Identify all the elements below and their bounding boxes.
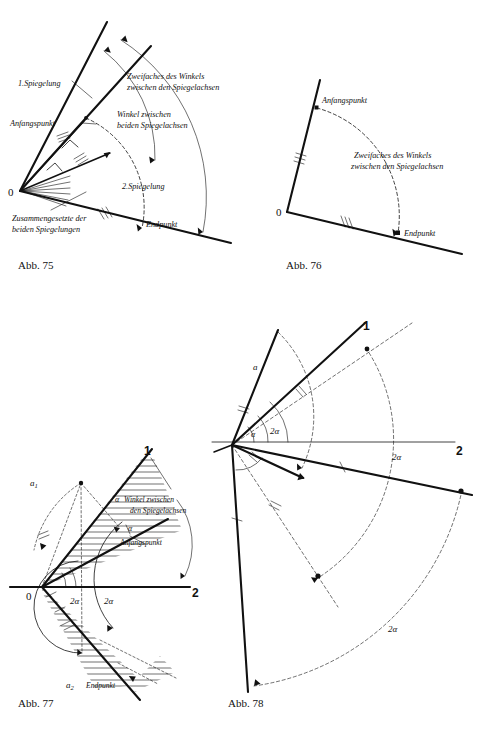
abb77-axis-2-label: 2 xyxy=(192,586,199,600)
abb77-label-end-point: Endpunkt xyxy=(85,681,116,690)
abb78-dashed-ray-upper xyxy=(232,323,412,445)
abb77-label-a2: a2 xyxy=(66,680,75,691)
abb77-label-2alpha-outer: 2α xyxy=(104,596,114,606)
figure-page: 1.Spiegelung Anfangspunkt Zweifaches des… xyxy=(0,0,489,734)
abb77-label-start-point: Anfangspunkt xyxy=(119,538,163,547)
abb77-tick-marks xyxy=(38,525,130,630)
abb76-end-point-dot xyxy=(396,231,401,236)
abb78-axis-1-line xyxy=(232,323,365,445)
abb77-hatching-upper xyxy=(30,460,200,580)
intermediate-ray-line xyxy=(20,153,110,191)
abb78-label-2alpha-far: 2α xyxy=(388,624,398,634)
abb77-arc-2alpha-outer-arrow xyxy=(107,625,113,632)
abb76-label-double-angle-line1: Zweifaches des Winkels xyxy=(354,151,431,160)
label-end-point: Endpunkt xyxy=(145,220,178,229)
abb78-alpha-arc-lower xyxy=(236,458,262,470)
abb78-arc-small-arrow xyxy=(297,464,302,471)
abb78-point-lower-dot xyxy=(315,573,320,578)
abb77-hatching-lower-b xyxy=(20,596,200,692)
caption-abb78: Abb. 78 xyxy=(228,697,264,709)
abb77-label-origin: 0 xyxy=(26,590,32,602)
abb77-dashed-lower-1 xyxy=(100,640,176,678)
abb77-label-2alpha-inner: 2α xyxy=(70,596,80,606)
abb77-leader-arrow-axis2 xyxy=(180,572,185,579)
label-composition-line1: Zusammengesetzte der xyxy=(12,214,87,223)
abb77-start-arrowhead xyxy=(114,527,120,533)
abb77-axis-1-label: 1 xyxy=(144,444,151,458)
label-double-angle-line2: zwischen den Spiegelachsen xyxy=(126,83,219,92)
angle-measure-arc-outer-arrow-bottom xyxy=(198,228,203,235)
label-origin-abb75: 0 xyxy=(8,186,14,198)
abb78-lower-right-ray xyxy=(232,445,472,495)
abb77-start-ray-line xyxy=(42,519,168,587)
angle-measure-arc-inner xyxy=(104,51,155,160)
figure-abb77: a1 a2 α α Winkel zwischen den Spiegelach… xyxy=(10,444,200,709)
abb76-start-point-dot xyxy=(315,106,319,110)
abb76-label-origin: 0 xyxy=(276,206,282,218)
abb78-point-right-dot xyxy=(458,488,463,493)
label-angle-between-axes-line1: Winkel zwischen xyxy=(117,110,171,119)
start-point-dot xyxy=(84,116,88,120)
abb78-stub-ray xyxy=(214,445,232,452)
label-composition-line2: beiden Spiegelungen xyxy=(12,225,80,234)
abb77-label-a1: a1 xyxy=(30,478,38,489)
abb77-end-arrowhead xyxy=(129,676,136,682)
abb78-arc-far xyxy=(254,490,462,686)
abb76-label-double-angle-line2: zwischen den Spiegelachsen xyxy=(350,162,443,171)
abb78-point-upper-dot xyxy=(365,347,370,352)
label-double-angle-line1: Zweifaches des Winkels xyxy=(127,72,204,81)
leader-start-point xyxy=(82,123,96,124)
right-angle-mark-lower xyxy=(47,163,62,171)
abb76-axis-2-line xyxy=(287,212,462,254)
figure-abb78: a α 2α 2α 2α 1 2 Abb. 78 xyxy=(212,319,472,709)
label-first-reflection: 1.Spiegelung xyxy=(18,79,61,88)
rotation-arc-arrowhead xyxy=(137,224,143,232)
abb78-label-a: a xyxy=(253,362,258,372)
leader-first-reflection xyxy=(72,81,92,98)
angle-measure-arc-inner-arrow-bottom xyxy=(149,156,155,163)
abb78-axis-1-label: 1 xyxy=(363,319,370,333)
geometry-plate: 1.Spiegelung Anfangspunkt Zweifaches des… xyxy=(0,0,489,734)
abb78-label-2alpha-mid: 2α xyxy=(392,452,402,462)
rotation-arc-dashed xyxy=(86,118,144,228)
angle-measure-arc-outer xyxy=(121,40,206,232)
start-ray-line xyxy=(20,120,85,191)
abb76-label-end-point: Endpunkt xyxy=(403,229,436,238)
mirror-axis-1-line xyxy=(20,22,107,191)
abb78-label-alpha: α xyxy=(251,430,256,439)
abb77-dashed-a1-to-axis xyxy=(81,483,120,528)
abb78-descending-line xyxy=(232,445,248,692)
figure-abb75: 1.Spiegelung Anfangspunkt Zweifaches des… xyxy=(8,22,231,271)
caption-abb75: Abb. 75 xyxy=(18,259,54,271)
caption-abb77: Abb. 77 xyxy=(18,697,54,709)
angle-measure-arc-outer-arrow-top xyxy=(121,36,128,43)
figure-abb76: Anfangspunkt Zweifaches des Winkels zwis… xyxy=(276,80,462,271)
label-start-point: Anfangspunkt xyxy=(9,119,56,128)
abb78-axis-2-label: 2 xyxy=(456,444,463,458)
abb76-tick-marks xyxy=(294,153,353,229)
label-second-reflection: 2.Spiegelung xyxy=(122,182,165,191)
abb77-label-alpha: α xyxy=(128,524,133,533)
abb78-arc-mid xyxy=(318,348,394,578)
abb77-label-alpha-legend: α xyxy=(115,495,120,504)
abb77-leader-alpha-legend xyxy=(151,458,171,489)
abb76-axis-1-line xyxy=(287,80,320,212)
abb78-arc-small xyxy=(278,332,314,468)
label-angle-between-axes-line2: beiden Spiegelachsen xyxy=(117,121,188,130)
abb77-dashed-outer-arc-arrow xyxy=(40,543,46,550)
abb77-dashed-outer-arc xyxy=(34,483,81,550)
abb76-label-start-point: Anfangspunkt xyxy=(321,96,368,105)
caption-abb76: Abb. 76 xyxy=(286,259,322,271)
abb77-label-angle-line2: den Spiegelachsen xyxy=(130,506,187,515)
abb78-label-2alpha-near: 2α xyxy=(270,426,280,436)
abb77-label-angle-line1: Winkel zwischen xyxy=(124,495,174,504)
